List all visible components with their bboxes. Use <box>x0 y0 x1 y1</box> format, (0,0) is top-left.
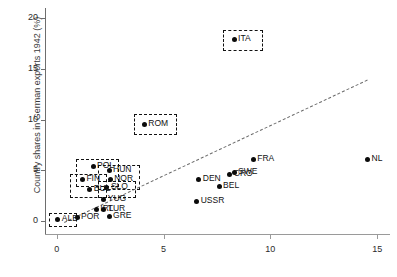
x-tick-mark <box>164 235 165 239</box>
data-point-label-tur: TUR <box>108 203 125 213</box>
data-point-fra[interactable] <box>251 157 256 162</box>
y-tick-label: 0 <box>12 215 38 225</box>
data-point-label-por: POR <box>81 211 99 221</box>
data-point-nor[interactable] <box>108 177 113 182</box>
x-tick-label: 15 <box>362 244 392 254</box>
data-point-gre[interactable] <box>107 214 112 219</box>
x-tick-mark <box>270 235 271 239</box>
data-point-bel[interactable] <box>217 184 222 189</box>
scatter-plot-figure: Country shares in German exports 1942 (%… <box>0 0 397 277</box>
y-tick-label: 15 <box>12 63 38 73</box>
data-point-label-den: DEN <box>203 173 221 183</box>
data-point-label-nor: NOR <box>114 173 133 183</box>
x-tick-mark <box>377 235 378 239</box>
x-tick-mark <box>57 235 58 239</box>
data-point-label-ussr: USSR <box>201 195 225 205</box>
data-point-ussr[interactable] <box>194 199 199 204</box>
data-point-label-bel: BEL <box>223 180 239 190</box>
y-tick-label: 10 <box>12 114 38 124</box>
data-point-rom[interactable] <box>142 122 147 127</box>
data-point-swe[interactable] <box>232 170 237 175</box>
x-tick-label: 0 <box>42 244 72 254</box>
data-point-label-swe: SWE <box>238 166 257 176</box>
y-tick-label: 5 <box>12 164 38 174</box>
data-point-den[interactable] <box>196 177 201 182</box>
plot-area: ALBPORGREIRLTURYUGBULSLOFINNORPOLHUNROMI… <box>45 8 390 230</box>
data-point-irl[interactable] <box>94 207 99 212</box>
data-point-yug[interactable] <box>101 197 106 202</box>
data-point-nl[interactable] <box>365 157 370 162</box>
data-point-label-nl: NL <box>372 153 383 163</box>
data-point-label-rom: ROM <box>148 118 168 128</box>
y-tick-label: 20 <box>12 12 38 22</box>
data-point-label-hun: HUN <box>113 164 131 174</box>
x-tick-label: 10 <box>255 244 285 254</box>
data-point-label-ita: ITA <box>238 33 251 43</box>
data-point-label-yug: YUG <box>108 193 126 203</box>
data-point-por[interactable] <box>75 215 80 220</box>
data-point-ita[interactable] <box>232 37 237 42</box>
x-tick-label: 5 <box>149 244 179 254</box>
data-point-hun[interactable] <box>107 168 112 173</box>
x-axis-line <box>45 234 390 235</box>
data-point-label-fin: FIN <box>86 173 100 183</box>
data-point-pol[interactable] <box>91 164 96 169</box>
data-point-label-fra: FRA <box>257 153 274 163</box>
